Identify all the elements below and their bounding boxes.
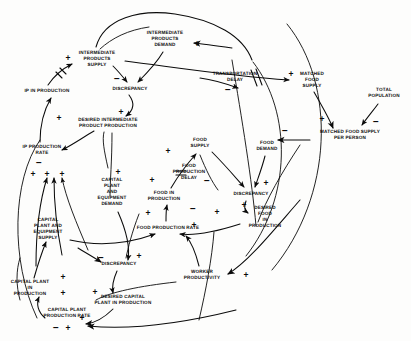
node-discrepancy-food: DISCREPANCY <box>233 191 268 197</box>
node-food-supply: FOOD SUPPLY <box>190 137 209 149</box>
polarity-text: − <box>36 157 42 168</box>
polarity-sign: + <box>244 271 249 280</box>
link-ip-in-production-to-ip-supply <box>48 64 72 85</box>
link-cap-discrepancy-to-desired-cap <box>113 271 117 293</box>
polarity-text: − <box>53 322 59 333</box>
node-label-text: INTERMEDIATE PRODUCTS DEMAND <box>147 30 183 47</box>
node-label-text: FOOD PRODUCTION RATE <box>137 225 199 230</box>
polarity-text: + <box>66 53 71 63</box>
link-ipd-to-ip-discrepancy <box>138 52 163 82</box>
polarity-text: − <box>114 73 120 84</box>
polarity-sign: + <box>61 273 66 282</box>
polarity-sign: − <box>225 85 231 95</box>
node-capital-plant-and-equipment-supply: CAPITAL PLANT AND EQUIPMENT SUPPLY <box>34 217 63 241</box>
polarity-sign: + <box>242 201 247 210</box>
link-bottom-return-arc <box>88 310 236 327</box>
polarity-sign: − <box>53 323 59 333</box>
polarity-text: − <box>373 116 379 127</box>
node-label-text: TOTAL POPULATION <box>368 87 400 98</box>
polarity-sign: + <box>320 115 325 124</box>
link-food-rate-to-food-in-production <box>166 205 167 221</box>
polarity-sign: − <box>373 117 379 127</box>
link-worker-productivity-to-food-rate <box>186 236 199 266</box>
polarity-text: + <box>289 69 294 79</box>
polarity-text: + <box>264 178 269 188</box>
polarity-text: + <box>66 323 71 333</box>
link-cap-rate-up-arc-c <box>62 178 88 250</box>
node-ip-in-production: IP IN PRODUCTION <box>24 88 69 94</box>
polarity-sign: + <box>137 252 142 261</box>
polarity-sign: − <box>204 176 210 186</box>
arc-top-left-feed <box>100 27 149 49</box>
node-label-text: WORKER PRODUCTIVITY <box>184 269 220 280</box>
polarity-sign: + <box>166 147 171 156</box>
polarity-sign: + <box>31 170 36 179</box>
polarity-sign: + <box>57 114 62 123</box>
link-ip-rate-to-ip-in-production <box>40 98 51 142</box>
node-discrepancy-capital: DISCREPANCY <box>101 261 136 267</box>
node-desired-food-in-production: DESIRED FOOD IN PRODUCTION <box>249 205 282 229</box>
polarity-text: + <box>93 287 98 297</box>
polarity-sign: + <box>150 176 155 185</box>
polarity-sign: + <box>119 108 124 117</box>
polarity-sign: + <box>80 314 85 323</box>
polarity-text: + <box>166 146 171 156</box>
node-food-production-delay: FOOD PRODUCTION DELAY <box>173 163 206 181</box>
node-label-text: FOOD PRODUCTION DELAY <box>173 163 206 180</box>
node-label-text: MATCHED FOOD SUPPLY <box>300 71 324 88</box>
link-right-loop-to-ipd <box>194 43 232 48</box>
causal-loop-diagram: INTERMEDIATE PRODUCTS DEMAND INTERMEDIAT… <box>0 0 411 341</box>
node-food-demand: FOOD DEMAND <box>256 140 277 152</box>
node-transportation-delay: TRANSPORTATION DELAY <box>213 71 258 83</box>
polarity-text: − <box>190 203 196 214</box>
link-food-supply-to-food-discrepancy <box>212 152 244 187</box>
polarity-sign: + <box>45 170 50 179</box>
polarity-text: + <box>45 169 50 179</box>
node-discrepancy-ip: DISCREPANCY <box>112 86 147 92</box>
polarity-sign: + <box>93 288 98 297</box>
polarity-text: + <box>61 288 66 298</box>
link-desired-ip-to-ip-rate <box>62 131 94 150</box>
node-label-text: TRANSPORTATION DELAY <box>213 71 258 82</box>
node-label-text: CAPITAL PLANT AND EQUIPMENT DEMAND <box>98 177 127 206</box>
polarity-sign: + <box>66 54 71 63</box>
node-intermediate-products-demand: INTERMEDIATE PRODUCTS DEMAND <box>147 30 183 48</box>
polarity-text: + <box>57 113 62 123</box>
node-capital-plant-and-equipment-demand: CAPITAL PLANT AND EQUIPMENT DEMAND <box>98 177 127 206</box>
polarity-sign: − <box>36 158 42 168</box>
polarity-sign: + <box>66 324 71 333</box>
polarity-text: + <box>146 208 151 218</box>
node-label-text: DISCREPANCY <box>233 191 268 196</box>
node-food-in-production: FOOD IN PRODUCTION <box>148 190 181 202</box>
node-label-text: FOOD SUPPLY <box>190 137 209 148</box>
node-matched-food-supply-per-person: MATCHED FOOD SUPPLY PER PERSON <box>320 129 380 141</box>
polarity-sign: − <box>190 204 196 214</box>
polarity-text: + <box>192 220 197 230</box>
polarity-text: + <box>137 251 142 261</box>
node-total-population: TOTAL POPULATION <box>368 87 400 99</box>
polarity-text: − <box>225 84 231 95</box>
polarity-text: + <box>242 200 247 210</box>
polarity-text: − <box>98 252 104 263</box>
polarity-text: + <box>195 39 200 49</box>
node-capital-plant-in-production: CAPITAL PLANT IN PRODUCTION <box>11 279 49 297</box>
polarity-text: − <box>204 175 210 186</box>
node-label-text: INTERMEDIATE PRODUCTS SUPPLY <box>79 50 115 67</box>
polarity-text: + <box>116 167 121 177</box>
node-label-text: DESIRED INTERMEDIATE PRODUCT PRODUCTION <box>78 117 137 128</box>
node-desired-capital-plant-in-production: DESIRED CAPITAL PLANT IN PRODUCTION <box>95 294 152 306</box>
polarity-sign: + <box>215 208 220 217</box>
node-food-production-rate: FOOD PRODUCTION RATE <box>137 225 199 231</box>
polarity-sign: + <box>116 168 121 177</box>
polarity-text: + <box>61 272 66 282</box>
polarity-sign: − <box>282 126 288 136</box>
node-label-text: DISCREPANCY <box>112 86 147 91</box>
polarity-text: + <box>150 175 155 185</box>
polarity-text: + <box>60 169 65 179</box>
polarity-text: − <box>282 125 288 136</box>
arc-capital-to-ip <box>103 132 108 168</box>
node-label-text: FOOD IN PRODUCTION <box>148 190 181 201</box>
polarity-sign: + <box>264 179 269 188</box>
node-matched-food-supply: MATCHED FOOD SUPPLY <box>300 71 324 89</box>
polarity-sign: + <box>61 289 66 298</box>
